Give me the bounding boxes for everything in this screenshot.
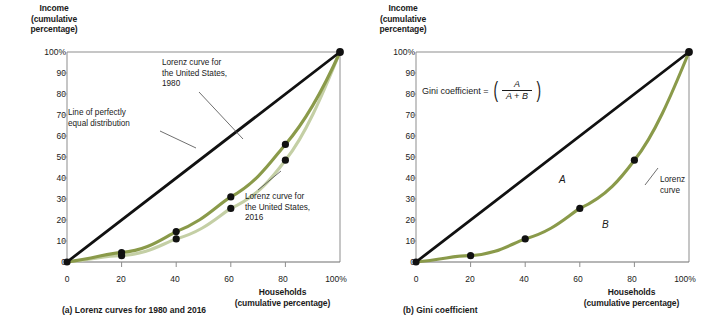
plot-area-b: [355, 0, 709, 300]
annotation-line: the United States,: [162, 69, 227, 80]
annotation-line: the United States,: [245, 203, 310, 214]
x-axis-title-line2: (cumulative percentage): [215, 298, 350, 309]
annotation-line: curve: [660, 186, 685, 197]
annotation-line: 1980: [162, 79, 227, 90]
annotation-line: equal distribution: [68, 119, 130, 130]
x-axis-title-b: Households (cumulative percentage): [564, 287, 699, 308]
panel-gini-coefficient: Income (cumulative percentage) 100% 90 8…: [355, 0, 709, 331]
annotation-lorenz-curve-b: Lorenz curve: [660, 175, 685, 196]
x-axis-title-a: Households (cumulative percentage): [215, 287, 350, 308]
x-axis-title-line2: (cumulative percentage): [564, 298, 699, 309]
gini-numerator: A: [510, 80, 524, 90]
x-axis-title-line1: Households: [215, 287, 350, 298]
region-label-b: B: [602, 219, 609, 230]
gini-formula: Gini coefficient = ( A A + B ): [422, 80, 542, 101]
region-label-a: A: [559, 174, 566, 185]
caption-b: (b) Gini coefficient: [403, 305, 478, 315]
formula-left-paren: (: [493, 81, 498, 100]
gini-formula-label: Gini coefficient =: [422, 86, 489, 96]
leader-line-equality: [160, 131, 196, 148]
annotation-line: Lorenz curve for: [162, 58, 227, 69]
formula-right-paren: ): [536, 81, 541, 100]
annotation-equality-line: Line of perfectly equal distribution: [68, 108, 130, 129]
leader-line-lorenz-b: [645, 168, 658, 185]
annotation-line: Lorenz curve for: [245, 192, 310, 203]
plot-area-a: [0, 0, 354, 300]
x-axis-title-line1: Households: [564, 287, 699, 298]
panel-lorenz-curves: Income (cumulative percentage) 100% 90 8…: [0, 0, 354, 331]
annotation-line: Lorenz: [660, 175, 685, 186]
lorenz-gini-figure: Income (cumulative percentage) 100% 90 8…: [0, 0, 709, 331]
annotation-line: 2016: [245, 213, 310, 224]
leader-line-1980: [199, 92, 243, 139]
caption-a: (a) Lorenz curves for 1980 and 2016: [62, 305, 206, 315]
gini-fraction: A A + B: [502, 80, 532, 101]
annotation-line: Line of perfectly: [68, 108, 130, 119]
annotation-lorenz-2016: Lorenz curve for the United States, 2016: [245, 192, 310, 224]
annotation-lorenz-1980: Lorenz curve for the United States, 1980: [162, 58, 227, 90]
gini-denominator: A + B: [502, 90, 532, 101]
